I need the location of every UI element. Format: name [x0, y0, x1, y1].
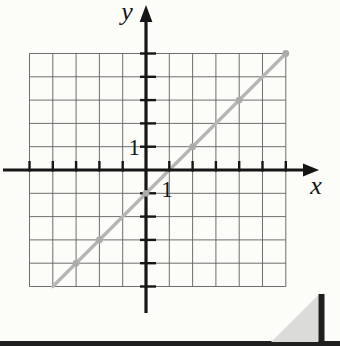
page-corner-bar: [319, 294, 325, 346]
data-point: [189, 143, 196, 150]
data-point: [236, 97, 243, 104]
x-axis-label: x: [309, 171, 322, 200]
data-point: [96, 237, 103, 244]
y-unit-label: 1: [129, 135, 141, 160]
data-point: [73, 260, 80, 267]
x-unit-label: 1: [161, 177, 173, 202]
textbook-figure-page: y x 1 1: [0, 0, 340, 346]
y-axis-arrowhead-icon: [140, 5, 153, 22]
coordinate-plane-chart: y x 1 1: [0, 0, 340, 346]
data-point: [143, 190, 150, 197]
y-axis-label: y: [118, 0, 133, 26]
data-point: [282, 50, 289, 57]
axes: [3, 5, 319, 313]
page-corner-triangle: [271, 295, 319, 342]
